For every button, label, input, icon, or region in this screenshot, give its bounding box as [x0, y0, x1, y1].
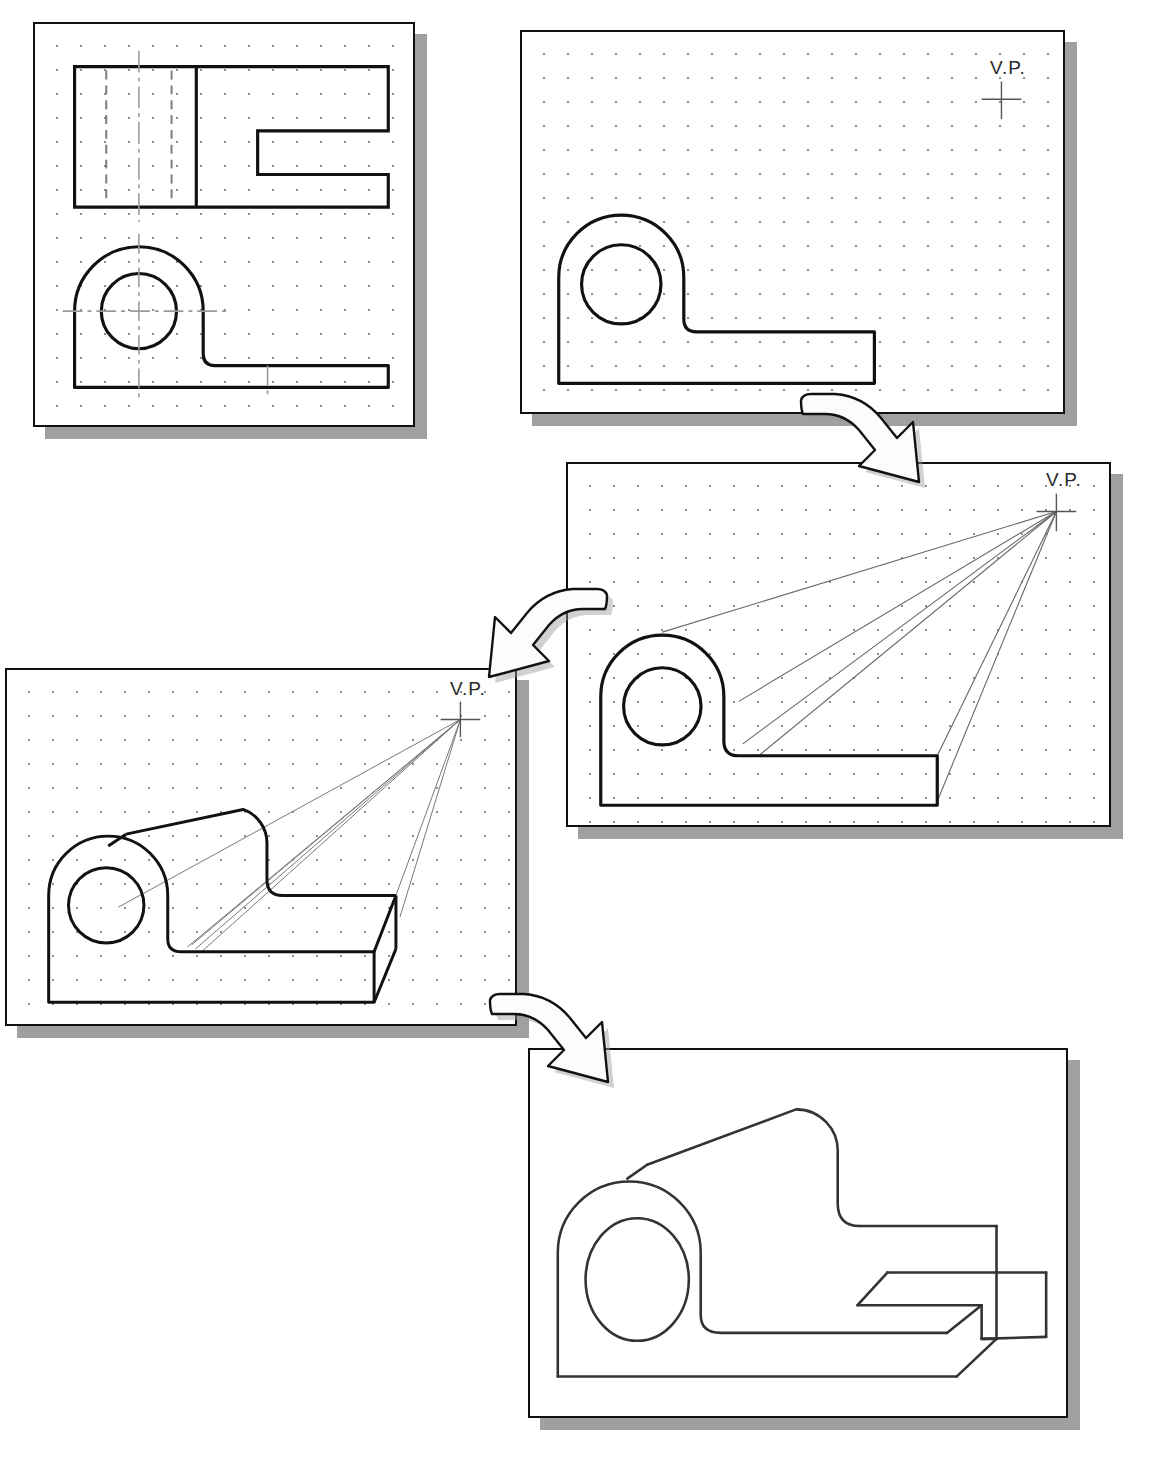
panel-4: V.P.	[5, 668, 517, 1026]
tutorial-figure: V.P. V.P.	[0, 0, 1154, 1469]
curved-arrow-icon	[795, 388, 950, 493]
projection-lines	[662, 511, 1056, 801]
panel-3-drawing	[568, 464, 1109, 825]
panel-4-drawing	[7, 670, 515, 1024]
arrow-panel3-to-panel4	[458, 583, 613, 688]
panel-3: V.P.	[566, 462, 1111, 827]
arrow-panel4-to-panel5	[484, 988, 639, 1093]
projection-lines	[118, 719, 460, 951]
panel-1-drawing	[35, 24, 413, 425]
curved-arrow-icon	[484, 988, 639, 1093]
panel-2: V.P.	[520, 30, 1065, 414]
arrow-panel2-to-panel3	[795, 388, 950, 493]
panel-5	[528, 1048, 1068, 1418]
panel-5-drawing	[530, 1050, 1066, 1416]
vp-crosshair	[1037, 494, 1077, 532]
vp-crosshair	[982, 81, 1022, 119]
panel-2-drawing	[522, 32, 1063, 412]
panel-1	[33, 22, 415, 427]
curved-arrow-icon	[458, 583, 613, 688]
